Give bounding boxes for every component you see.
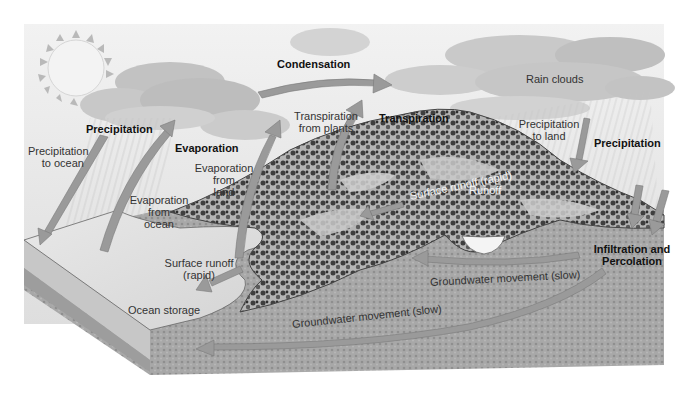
label-transpiration-from-plants: Transpiration from plants — [288, 110, 364, 134]
label-precipitation-to-land: Precipitation to land — [516, 118, 582, 142]
label-transpiration: Transpiration — [379, 112, 449, 124]
label-condensation: Condensation — [277, 58, 350, 70]
water-cycle-diagram: Condensation Rain clouds Precipitation P… — [0, 0, 694, 398]
label-rain-clouds: Rain clouds — [526, 73, 583, 85]
label-evaporation: Evaporation — [175, 142, 239, 154]
label-precipitation-to-ocean: Precipitation to ocean — [28, 145, 89, 169]
label-evaporation-from-land: Evaporation from land — [193, 162, 255, 198]
label-infiltration-percolation: Infiltration and Percolation — [580, 243, 684, 267]
label-precipitation-left: Precipitation — [86, 123, 153, 135]
label-precipitation-right: Precipitation — [594, 137, 661, 149]
label-ocean-storage: Ocean storage — [128, 304, 200, 316]
label-surface-runoff: Surface runoff (rapid) — [161, 257, 237, 281]
label-evaporation-from-ocean: Evaporation from ocean — [128, 194, 190, 230]
label-runoff: Runoff — [469, 184, 501, 196]
